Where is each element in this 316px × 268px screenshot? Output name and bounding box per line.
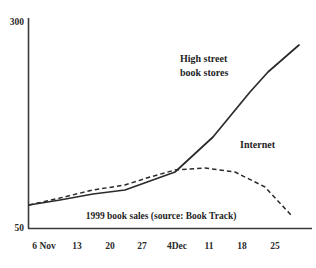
series-line-high-street (29, 45, 299, 205)
chart-canvas: 300 50 6 Nov 13 20 27 4Dec 11 18 25 High… (0, 0, 316, 268)
x-tick-label-4: 4Dec (167, 241, 187, 251)
x-tick-label-2: 20 (105, 241, 115, 251)
x-tick-label-1: 13 (72, 241, 82, 251)
annotation-internet: Internet (240, 139, 276, 150)
y-axis-label-top: 300 (10, 17, 25, 27)
annotation-high-street-line2: book stores (180, 67, 229, 78)
x-tick-label-0: 6 Nov (32, 241, 56, 251)
x-tick-label-5: 11 (205, 241, 214, 251)
series-line-internet (29, 168, 292, 216)
annotation-high-street-line1: High street (180, 53, 228, 64)
line-chart: 300 50 6 Nov 13 20 27 4Dec 11 18 25 High… (0, 0, 316, 268)
y-axis-label-bottom: 50 (15, 223, 25, 233)
x-tick-label-6: 18 (237, 241, 247, 251)
x-tick-label-3: 27 (137, 241, 147, 251)
x-tick-label-7: 25 (270, 241, 280, 251)
chart-caption: 1999 book sales (source: Book Track) (86, 211, 237, 222)
